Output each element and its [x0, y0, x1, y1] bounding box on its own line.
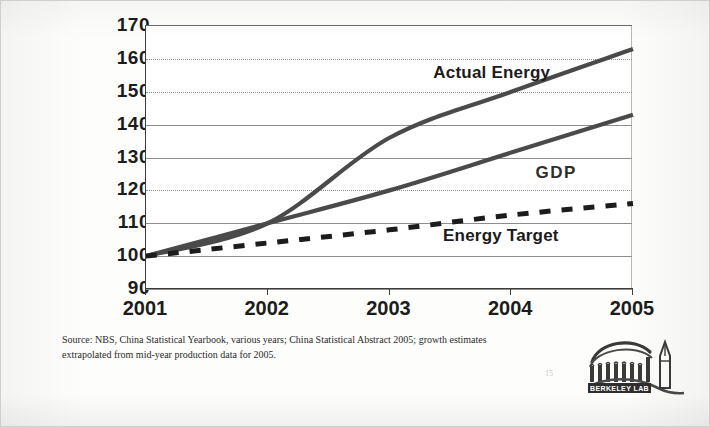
- series-line-actual-energy: [146, 49, 633, 256]
- x-axis-tick-2002: 2002: [245, 297, 290, 320]
- source-footnote: Source: NBS, China Statistical Yearbook,…: [62, 333, 532, 362]
- berkeley-lab-logo-icon: BERKELEY LAB: [588, 336, 698, 398]
- x-axis-tick-2003: 2003: [366, 297, 411, 320]
- x-tick-mark-2005: [632, 288, 633, 295]
- x-tick-mark-2002: [267, 288, 268, 295]
- x-axis-tick-2004: 2004: [488, 297, 533, 320]
- x-axis-tick-2005: 2005: [610, 297, 655, 320]
- series-label-gdp: GDP: [536, 163, 577, 183]
- chart-figure: 17016015014013012011010090 Actual Energy…: [0, 0, 710, 330]
- x-tick-mark-2001: [145, 288, 146, 295]
- berkeley-lab-wordmark: BERKELEY LAB: [590, 385, 649, 392]
- series-label-energy-target: Energy Target: [443, 226, 559, 246]
- plot-area: Actual Energy GDP Energy Target: [145, 25, 632, 288]
- page-number: 15: [545, 369, 553, 378]
- x-axis-tick-2001: 2001: [123, 297, 168, 320]
- x-tick-mark-2003: [389, 288, 390, 295]
- series-lines: [146, 26, 633, 289]
- series-label-actual-energy: Actual Energy: [433, 63, 550, 83]
- x-tick-mark-2004: [510, 288, 511, 295]
- series-line-energy-target: [146, 204, 633, 257]
- berkeley-lab-logo: BERKELEY LAB: [588, 336, 698, 398]
- y-axis-tick-labels: 17016015014013012011010090: [104, 0, 150, 300]
